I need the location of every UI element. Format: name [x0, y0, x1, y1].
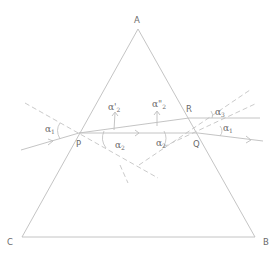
- construction-dash: [120, 165, 128, 183]
- arc-alpha3: [211, 111, 213, 118]
- arc-alpha1-left: [58, 123, 61, 139]
- normal-at-p: [25, 103, 158, 178]
- vertex-label-b: B: [263, 237, 269, 247]
- vertex-label-a: A: [134, 15, 140, 25]
- point-label-p: P: [76, 139, 81, 149]
- vertex-label-c: C: [7, 237, 13, 247]
- prism-diagram: A B C P Q R α1 α'2 α"2 α2 α2 α3 α1: [0, 0, 274, 267]
- angle-label-alpha2-double-prime: α"2: [152, 99, 166, 110]
- point-label-q: Q: [193, 139, 200, 149]
- angle-label-alpha3: α3: [215, 107, 225, 118]
- incident-ray: [21, 133, 79, 150]
- emergent-ray-q: [198, 133, 263, 141]
- point-label-r: R: [186, 104, 192, 114]
- angle-label-alpha1-right: α1: [223, 123, 233, 134]
- angle-label-alpha2-right: α2: [156, 138, 166, 149]
- arrow-alpha2-prime: [114, 113, 115, 130]
- angle-label-alpha1-left: α1: [45, 124, 55, 135]
- normal-at-q: [163, 104, 255, 147]
- angle-label-alpha2-prime: α'2: [108, 102, 121, 113]
- arc-alpha1-right: [220, 126, 222, 136]
- internal-ray-pr: [79, 118, 189, 133]
- arc-alpha2-left: [102, 131, 106, 148]
- angle-label-alpha2-left: α2: [115, 140, 125, 151]
